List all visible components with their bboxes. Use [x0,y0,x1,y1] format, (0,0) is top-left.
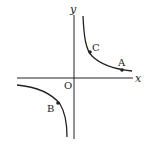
point-b-label: B [47,103,54,114]
x-axis-label: x [135,72,142,85]
diagram-svg: y x O C A B [0,0,149,147]
y-axis-label: y [69,3,77,16]
hyperbola-diagram: y x O C A B [0,0,149,147]
point-a-marker [120,68,124,72]
point-b-marker [56,101,60,105]
origin-label: O [64,80,72,91]
hyperbola-branch-lower-left [17,85,67,137]
point-c-label: C [92,42,100,53]
point-a-label: A [117,57,126,68]
